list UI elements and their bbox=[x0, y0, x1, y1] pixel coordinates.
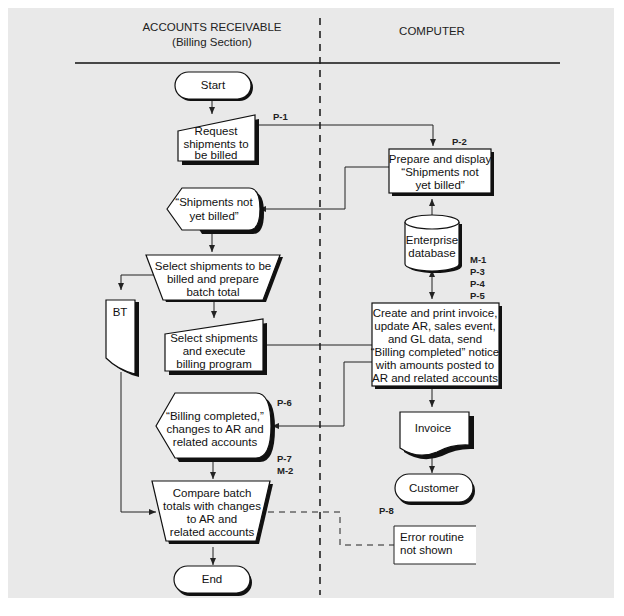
shipments-not-billed-display: “Shipments not yet billed” bbox=[167, 188, 264, 234]
select-execute-line-2: and execute bbox=[183, 345, 246, 357]
select-prepare-line-1: Select shipments to be bbox=[155, 260, 271, 272]
select-execute-line-3: billing program bbox=[176, 358, 251, 370]
create-line-3: and GL data, send bbox=[388, 333, 482, 345]
request-line-3: be billed bbox=[195, 149, 238, 161]
label-m2: M-2 bbox=[277, 465, 293, 476]
create-line-1: Create and print invoice, bbox=[373, 307, 498, 319]
end-terminal: End bbox=[174, 566, 252, 596]
lane-title-accounts-receivable: ACCOUNTS RECEIVABLE bbox=[142, 21, 281, 33]
display2-line-3: related accounts bbox=[173, 436, 258, 448]
billing-completed-display: “Billing completed,” changes to AR and r… bbox=[156, 393, 275, 462]
prepare-display-process: Prepare and display “Shipments not yet b… bbox=[389, 149, 494, 196]
compare-line-3: to AR and bbox=[187, 513, 238, 525]
invoice-label: Invoice bbox=[415, 422, 451, 434]
batch-total-document: BT bbox=[106, 300, 139, 377]
error-routine-annotation: Error routine not shown bbox=[394, 526, 476, 564]
create-line-6: AR and related accounts bbox=[372, 372, 498, 384]
select-execute-line-1: Select shipments bbox=[170, 332, 258, 344]
select-prepare-line-2: billed and prepare bbox=[167, 273, 259, 285]
label-m1: M-1 bbox=[470, 254, 487, 265]
label-p5: P-5 bbox=[470, 290, 486, 301]
display1-line-1: “Shipments not bbox=[175, 196, 253, 208]
customer-label: Customer bbox=[409, 482, 459, 494]
label-p4: P-4 bbox=[470, 278, 486, 289]
database-line-2: database bbox=[408, 247, 455, 259]
label-p7: P-7 bbox=[277, 453, 292, 464]
select-prepare-manual-operation: Select shipments to be billed and prepar… bbox=[146, 255, 283, 302]
display1-line-2: yet billed” bbox=[189, 210, 238, 222]
label-p6: P-6 bbox=[277, 397, 292, 408]
start-label: Start bbox=[201, 79, 226, 91]
error-routine-line-1: Error routine bbox=[400, 531, 464, 543]
compare-line-2: totals with changes bbox=[163, 500, 261, 512]
lane-title-computer: COMPUTER bbox=[399, 25, 465, 37]
database-line-1: Enterprise bbox=[406, 234, 458, 246]
select-execute-manual-input: Select shipments and execute billing pro… bbox=[165, 319, 267, 375]
prepare-line-1: Prepare and display bbox=[389, 153, 492, 165]
compare-batch-totals-manual-operation: Compare batch totals with changes to AR … bbox=[152, 481, 273, 544]
display2-line-1: “Billing completed,” bbox=[166, 410, 264, 422]
label-p1: P-1 bbox=[273, 111, 289, 122]
end-label: End bbox=[202, 573, 222, 585]
enterprise-database-disk: Enterprise database bbox=[405, 215, 462, 273]
lane-subtitle-billing-section: (Billing Section) bbox=[172, 36, 252, 48]
start-terminal: Start bbox=[175, 72, 253, 101]
request-line-1: Request bbox=[195, 125, 239, 137]
prepare-line-3: yet billed” bbox=[415, 179, 464, 191]
label-p8: P-8 bbox=[379, 505, 394, 516]
compare-line-1: Compare batch bbox=[173, 487, 252, 499]
customer-terminal: Customer bbox=[395, 474, 475, 505]
label-p2: P-2 bbox=[452, 136, 467, 147]
swimlane-header: ACCOUNTS RECEIVABLE (Billing Section) CO… bbox=[75, 21, 560, 63]
error-routine-line-2: not shown bbox=[400, 544, 452, 556]
display2-line-2: changes to AR and bbox=[166, 423, 263, 435]
invoice-document: Invoice bbox=[400, 412, 474, 459]
request-shipments-manual-input: Request shipments to be billed bbox=[178, 115, 259, 165]
create-line-4: “Billing completed” notice bbox=[371, 346, 499, 358]
create-line-2: update AR, sales event, bbox=[374, 320, 495, 332]
prepare-line-2: “Shipments not bbox=[401, 166, 479, 178]
label-p3: P-3 bbox=[470, 266, 485, 277]
select-prepare-line-3: batch total bbox=[186, 286, 239, 298]
bt-label: BT bbox=[113, 306, 128, 318]
create-line-5: with amounts posted to bbox=[375, 359, 494, 371]
compare-line-4: related accounts bbox=[170, 526, 255, 538]
flowchart: ACCOUNTS RECEIVABLE (Billing Section) CO… bbox=[0, 0, 624, 616]
create-invoice-process: Create and print invoice, update AR, sal… bbox=[371, 303, 502, 389]
